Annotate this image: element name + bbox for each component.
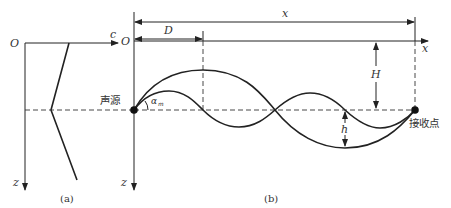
panel-b-origin-label: O xyxy=(121,35,130,48)
panel-a-z-axis-label: z xyxy=(12,176,19,189)
panel-a-sound-speed-profile: O c z (a) xyxy=(10,28,134,204)
panel-b-caption: (b) xyxy=(264,193,278,204)
sound-propagation-diagram: O c z (a) z O x x D H h xyxy=(0,0,451,208)
source-point-icon xyxy=(130,106,138,114)
receiver-label: 接收点 xyxy=(409,117,439,129)
panel-b-z-axis-label: z xyxy=(120,176,127,189)
launch-angle-subscript: m xyxy=(158,100,164,107)
ray-path-small xyxy=(134,91,415,128)
panel-b-x-axis-label: x xyxy=(422,42,429,55)
h-label: h xyxy=(341,123,348,136)
D-label: D xyxy=(163,24,173,37)
H-label: H xyxy=(370,68,381,81)
launch-angle-label: α xyxy=(151,96,157,106)
source-label: 声源 xyxy=(100,94,121,106)
receiver-point-icon xyxy=(411,106,419,114)
launch-angle-arc xyxy=(145,101,148,110)
panel-b-ray-paths: z O x x D H h α m 声源 xyxy=(100,7,439,204)
range-x-label: x xyxy=(282,7,289,20)
panel-a-origin-label: O xyxy=(10,37,19,50)
sound-speed-profile-curve xyxy=(51,43,77,180)
panel-a-c-axis-label: c xyxy=(110,28,116,41)
panel-a-caption: (a) xyxy=(60,193,74,204)
